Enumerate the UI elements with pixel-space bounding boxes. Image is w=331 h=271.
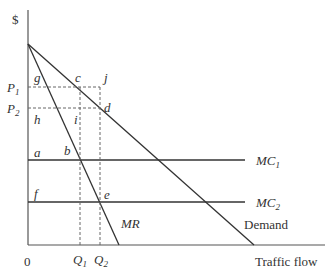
p2-label: P2 [6,101,20,118]
point-b: b [64,143,71,158]
point-i: i [74,112,78,127]
point-e: e [104,187,110,202]
point-g: g [34,70,41,85]
mr-label: MR [120,216,140,231]
monopoly-diagram: $ 0 Traffic flow P1 P2 Q1 Q2 MC1 MC2 Dem… [0,0,331,271]
point-h: h [34,112,41,127]
point-c: c [75,70,81,85]
origin-label: 0 [24,254,31,269]
demand-curve [28,44,254,245]
mc2-label: MC2 [255,195,281,212]
point-d: d [104,100,111,115]
q1-label: Q1 [73,252,87,269]
x-axis-label: Traffic flow [255,254,318,269]
point-f: f [34,186,40,201]
y-axis-label: $ [12,12,19,27]
point-j: j [102,70,108,85]
q2-label: Q2 [94,252,108,269]
point-a: a [34,145,41,160]
mc1-label: MC1 [255,153,280,170]
p1-label: P1 [6,80,19,97]
demand-label: Demand [244,217,289,232]
